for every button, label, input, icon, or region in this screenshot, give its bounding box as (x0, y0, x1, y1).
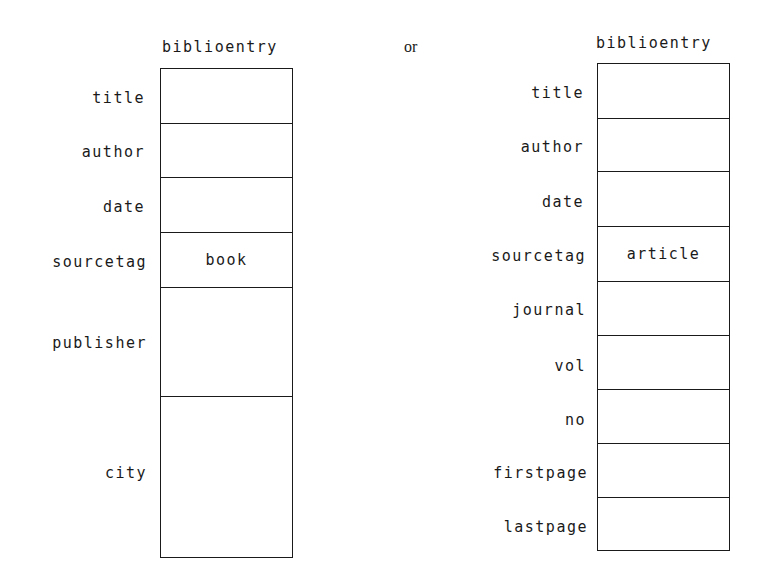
right-label-sourcetag: sourcetag (491, 247, 586, 265)
right-cell-firstpage (598, 443, 729, 497)
left-cell-title (161, 69, 292, 123)
right-label-author: author (521, 138, 584, 156)
left-label-date: date (103, 198, 145, 216)
left-cell-sourcetag: book (161, 232, 292, 287)
right-cell-vol (598, 335, 729, 389)
left-cell-publisher (161, 287, 292, 396)
right-cell-lastpage (598, 497, 729, 551)
right-cell-author (598, 118, 729, 171)
left-record-box: book (160, 68, 293, 558)
left-record-header: biblioentry (162, 38, 278, 56)
right-label-vol: vol (554, 357, 586, 375)
right-label-journal: journal (512, 301, 586, 319)
left-label-publisher: publisher (52, 334, 147, 352)
right-cell-sourcetag: article (598, 226, 729, 281)
right-record-box: article (597, 63, 730, 551)
right-cell-journal (598, 281, 729, 335)
right-record-header: biblioentry (596, 34, 712, 52)
right-label-lastpage: lastpage (504, 518, 588, 536)
right-cell-sourcetag-value: article (627, 245, 701, 263)
left-cell-sourcetag-value: book (205, 251, 247, 269)
left-cell-author (161, 123, 292, 177)
left-label-sourcetag: sourcetag (52, 253, 147, 271)
left-label-title: title (92, 89, 145, 107)
right-cell-title (598, 64, 729, 118)
right-label-title: title (531, 84, 584, 102)
or-connector-text: or (404, 38, 417, 56)
right-label-date: date (542, 193, 584, 211)
left-cell-date (161, 177, 292, 232)
right-label-firstpage: firstpage (493, 464, 588, 482)
left-label-author: author (82, 143, 145, 161)
right-cell-date (598, 171, 729, 226)
right-cell-no (598, 389, 729, 443)
left-label-city: city (105, 464, 147, 482)
right-label-no: no (565, 411, 586, 429)
left-cell-city (161, 396, 292, 558)
